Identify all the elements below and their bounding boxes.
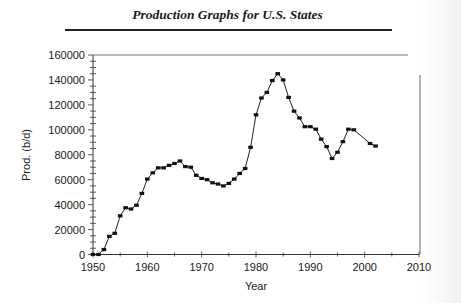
y-tick-label: 160000 <box>48 49 85 61</box>
data-point-marker <box>118 214 123 217</box>
data-point-marker <box>140 192 145 195</box>
x-tick-label: 1990 <box>298 261 322 273</box>
x-tick-label: 2010 <box>407 261 431 273</box>
y-axis: 0200004000060000800001000001200001400001… <box>48 49 96 261</box>
data-point-marker <box>270 79 275 82</box>
data-point-marker <box>286 96 291 99</box>
x-tick-label: 1950 <box>81 261 105 273</box>
y-tick-label: 80000 <box>54 149 85 161</box>
x-axis-title: Year <box>245 280 268 292</box>
y-tick-label: 0 <box>79 249 85 261</box>
data-point-marker <box>303 125 308 128</box>
data-point-marker <box>91 253 96 256</box>
data-series <box>91 72 378 256</box>
plot-frame <box>93 55 420 255</box>
data-point-marker <box>150 171 155 174</box>
data-point-marker <box>172 162 177 165</box>
y-tick-label: 40000 <box>54 199 85 211</box>
data-point-marker <box>167 164 172 167</box>
data-point-marker <box>227 182 232 185</box>
data-point-marker <box>330 157 335 160</box>
y-tick-label: 120000 <box>48 99 85 111</box>
data-point-marker <box>313 128 318 131</box>
data-point-marker <box>199 177 204 180</box>
series-line <box>93 74 376 255</box>
data-point-marker <box>216 182 221 185</box>
data-point-marker <box>161 166 166 169</box>
data-point-marker <box>221 184 226 187</box>
data-point-marker <box>112 232 117 235</box>
data-point-marker <box>189 166 194 169</box>
x-tick-label: 2000 <box>352 261 376 273</box>
x-tick-label: 1960 <box>135 261 159 273</box>
data-point-marker <box>96 253 101 256</box>
data-point-marker <box>205 178 210 181</box>
data-point-marker <box>324 145 329 148</box>
data-point-marker <box>281 78 286 81</box>
data-point-marker <box>178 159 183 162</box>
data-point-marker <box>254 113 259 116</box>
x-tick-label: 1970 <box>189 261 213 273</box>
data-point-marker <box>237 172 242 175</box>
y-tick-label: 100000 <box>48 124 85 136</box>
data-point-marker <box>297 116 302 119</box>
data-point-marker <box>210 181 215 184</box>
data-point-marker <box>232 177 237 180</box>
data-point-marker <box>145 177 150 180</box>
data-point-marker <box>123 206 128 209</box>
data-point-marker <box>129 207 134 210</box>
x-tick-label: 1980 <box>244 261 268 273</box>
y-tick-label: 20000 <box>54 224 85 236</box>
data-point-marker <box>373 144 378 147</box>
data-point-marker <box>275 72 280 75</box>
data-point-marker <box>183 165 188 168</box>
data-point-marker <box>102 248 107 251</box>
data-point-marker <box>265 91 270 94</box>
data-point-marker <box>292 110 297 113</box>
data-point-marker <box>194 174 199 177</box>
data-point-marker <box>308 125 313 128</box>
data-point-marker <box>259 96 264 99</box>
data-point-marker <box>335 151 340 154</box>
production-line-chart: 0200004000060000800001000001200001400001… <box>0 0 461 303</box>
data-point-marker <box>156 166 161 169</box>
y-tick-label: 60000 <box>54 174 85 186</box>
data-point-marker <box>248 146 253 149</box>
data-point-marker <box>134 204 139 207</box>
data-point-marker <box>346 128 351 131</box>
data-point-marker <box>341 140 346 143</box>
y-axis-title: Prod. (b/d) <box>20 129 32 181</box>
data-point-marker <box>319 138 324 141</box>
data-point-marker <box>352 128 357 131</box>
data-point-marker <box>368 142 373 145</box>
y-tick-label: 140000 <box>48 74 85 86</box>
data-point-marker <box>107 235 112 238</box>
data-point-marker <box>243 167 248 170</box>
